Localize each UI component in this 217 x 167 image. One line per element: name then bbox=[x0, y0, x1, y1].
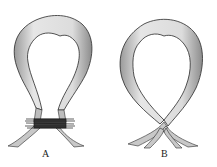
loop-b bbox=[120, 19, 202, 126]
twist-icon bbox=[128, 122, 198, 148]
panel-label-a: A bbox=[42, 149, 49, 159]
panel-label-b: B bbox=[161, 149, 168, 159]
constriction-band-icon bbox=[25, 119, 75, 128]
illustration bbox=[0, 0, 217, 167]
